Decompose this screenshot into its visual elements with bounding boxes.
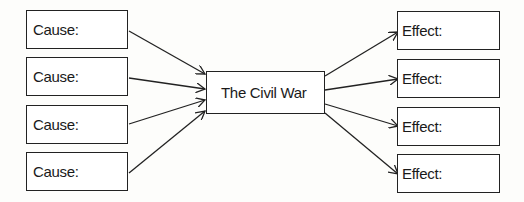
center-topic-box: The Civil War xyxy=(206,71,325,114)
effect-label: Effect: xyxy=(402,70,442,87)
effect-box-2: Effect: xyxy=(397,59,500,98)
center-topic-label: The Civil War xyxy=(221,84,307,101)
effect-box-3: Effect: xyxy=(397,107,500,146)
cause-box-4: Cause: xyxy=(26,152,128,191)
arrow-cause-1 xyxy=(129,31,205,74)
effect-label: Effect: xyxy=(402,118,442,135)
cause-label: Cause: xyxy=(33,21,79,38)
arrow-effect-1 xyxy=(325,32,398,76)
effect-box-1: Effect: xyxy=(397,11,500,50)
cause-label: Cause: xyxy=(33,68,79,85)
arrow-effect-2 xyxy=(325,79,398,90)
effect-box-4: Effect: xyxy=(397,154,500,193)
effect-label: Effect: xyxy=(402,22,442,39)
cause-label: Cause: xyxy=(33,116,79,133)
effect-label: Effect: xyxy=(402,165,442,182)
cause-label: Cause: xyxy=(33,163,79,180)
cause-box-1: Cause: xyxy=(26,10,128,49)
cause-box-3: Cause: xyxy=(26,105,128,144)
arrow-cause-2 xyxy=(129,78,205,89)
cause-box-2: Cause: xyxy=(26,57,128,96)
